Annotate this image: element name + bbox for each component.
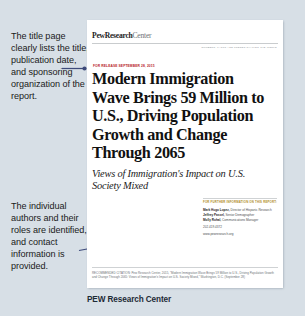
header-divider: [92, 43, 278, 44]
screenshot-canvas: The title page clearly lists the title, …: [0, 0, 305, 316]
author-row: Molly Rohal, Communications Manager: [203, 218, 277, 223]
report-subhead: Views of Immigration's Impact on U.S. So…: [92, 168, 254, 192]
author-name: Mark Hugo Lopez,: [203, 208, 230, 212]
logo-bold-text: PewResearch: [92, 31, 133, 40]
contact-box-divider: [203, 198, 277, 199]
contact-website: www.pewresearch.org: [203, 232, 277, 237]
contact-heading: FOR FURTHER INFORMATION ON THIS REPORT:: [203, 201, 277, 205]
pew-research-center-logo: PewResearchCenter: [92, 31, 151, 40]
page-caption: PEW Research Center: [87, 295, 171, 304]
author-name: Jeffrey Passel,: [203, 213, 225, 217]
author-role: Communications Manager: [222, 218, 258, 222]
report-header: PewResearchCenter NUMBERS, FACTS AND TRE…: [87, 26, 283, 48]
logo-light-text: Center: [133, 31, 152, 40]
release-date: FOR RELEASE SEPTEMBER 28, 2015: [93, 64, 155, 68]
header-tagline: NUMBERS, FACTS AND TRENDS SHAPING THE WO…: [202, 45, 277, 48]
footer-divider: [92, 267, 278, 268]
recommended-citation: RECOMMENDED CITATION: Pew Research Cente…: [92, 271, 277, 280]
author-role: Senior Demographer: [226, 213, 255, 217]
report-headline: Modern Immigration Wave Brings 59 Millio…: [92, 70, 264, 163]
report-title-page: PewResearchCenter NUMBERS, FACTS AND TRE…: [87, 20, 283, 288]
author-name: Molly Rohal,: [203, 218, 221, 222]
annotation-authors: The individual authors and their roles a…: [11, 200, 89, 273]
author-role: Director of Hispanic Research: [231, 208, 272, 212]
contact-information-box: FOR FURTHER INFORMATION ON THIS REPORT: …: [203, 198, 277, 236]
author-row: Jeffrey Passel, Senior Demographer: [203, 213, 277, 218]
annotation-title-page: The title page clearly lists the title, …: [11, 30, 89, 103]
contact-phone: 202.419.4372: [203, 225, 277, 230]
author-row: Mark Hugo Lopez, Director of Hispanic Re…: [203, 208, 277, 213]
